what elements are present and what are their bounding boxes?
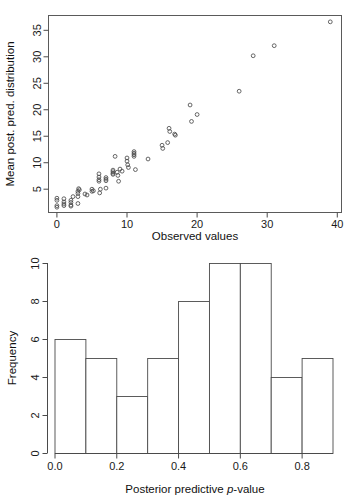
histogram-y-tick-label: 4 (29, 374, 41, 380)
scatter-y-axis-tick-labels: 5101520253035 (31, 24, 43, 192)
histogram-y-tick-label: 10 (29, 257, 41, 269)
scatter-point (146, 157, 150, 161)
scatter-y-tick-label: 10 (31, 157, 43, 169)
histogram-y-tick-label: 8 (29, 298, 41, 304)
scatter-point (117, 179, 121, 183)
histogram-x-axis-ticks (55, 454, 302, 459)
figure-container: 5101520253035 010203040 Observed values … (0, 0, 354, 500)
scatter-point (195, 113, 199, 117)
histogram-bars (55, 264, 333, 454)
scatter-point (166, 141, 170, 145)
scatter-y-axis-ticks (44, 30, 49, 189)
histogram-bar (55, 340, 86, 454)
scatter-x-tick-label: 30 (261, 218, 273, 230)
scatter-point (237, 89, 241, 93)
histogram-bar (179, 302, 210, 454)
histogram-x-axis-tick-labels: 0.00.20.40.60.8 (47, 460, 309, 472)
histogram-bar (271, 378, 302, 454)
scatter-x-tick-label: 40 (331, 218, 343, 230)
scatter-y-tick-label: 35 (31, 24, 43, 36)
scatter-data-points (55, 20, 332, 209)
scatter-y-tick-label: 20 (31, 104, 43, 116)
histogram-y-axis-ticks (43, 264, 48, 454)
scatter-y-tick-label: 5 (31, 186, 43, 192)
histogram-x-tick-label: 0.8 (294, 460, 309, 472)
scatter-y-axis-title: Mean post. pred. distribution (4, 41, 16, 186)
scatter-point (251, 54, 255, 58)
scatter-point (98, 191, 102, 195)
scatter-x-axis-tick-labels: 010203040 (54, 218, 344, 230)
scatter-y-tick-label: 15 (31, 130, 43, 142)
scatter-point (134, 168, 138, 172)
histogram-y-axis-tick-labels: 0246810 (29, 257, 41, 456)
scatter-point (71, 195, 75, 199)
histogram-bar (209, 264, 240, 454)
scatter-plot-svg: 5101520253035 010203040 Observed values … (0, 0, 354, 250)
histogram-y-axis-title: Frequency (6, 331, 18, 386)
scatter-x-tick-label: 20 (191, 218, 203, 230)
scatter-y-tick-label: 25 (31, 77, 43, 89)
histogram-bar (302, 359, 333, 454)
scatter-x-tick-label: 10 (121, 218, 133, 230)
scatter-point (76, 202, 80, 206)
scatter-point (104, 186, 108, 190)
histogram-bar (86, 359, 117, 454)
scatter-y-tick-label: 30 (31, 51, 43, 63)
scatter-point (113, 154, 117, 158)
scatter-point (190, 120, 194, 124)
histogram-y-tick-label: 2 (29, 412, 41, 418)
scatter-point (272, 44, 276, 48)
histogram-bar (148, 359, 179, 454)
scatter-x-tick-label: 0 (54, 218, 60, 230)
histogram-svg: 0246810 0.00.20.40.60.8 Posterior predic… (0, 250, 354, 500)
histogram-bar (117, 397, 148, 454)
scatter-point (98, 187, 102, 191)
histogram-bar (240, 264, 271, 454)
histogram-x-tick-label: 0.6 (233, 460, 248, 472)
histogram-y-tick-label: 0 (29, 450, 41, 456)
histogram-x-axis-title: Posterior predictive p-value (125, 483, 264, 495)
histogram-x-tick-label: 0.4 (171, 460, 186, 472)
histogram-panel: 0246810 0.00.20.40.60.8 Posterior predic… (0, 250, 354, 500)
scatter-point (188, 103, 192, 107)
scatter-point (328, 20, 332, 24)
histogram-y-tick-label: 6 (29, 336, 41, 342)
histogram-x-tick-label: 0.2 (109, 460, 124, 472)
scatter-x-axis-title: Observed values (152, 230, 239, 242)
scatter-x-axis-ticks (57, 213, 337, 218)
scatter-plot-panel: 5101520253035 010203040 Observed values … (0, 0, 354, 250)
histogram-x-tick-label: 0.0 (47, 460, 62, 472)
